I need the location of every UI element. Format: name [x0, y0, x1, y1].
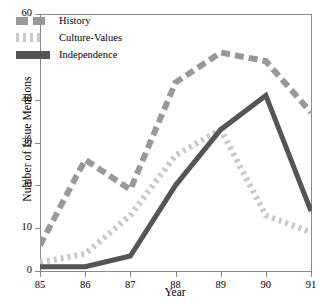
x-tick-label: 87	[118, 279, 142, 290]
x-tick-label: 89	[209, 279, 233, 290]
x-tick: 89	[221, 272, 222, 277]
x-tick-label: 86	[73, 279, 97, 290]
legend-item-culture-values[interactable]: Culture-Values	[16, 29, 122, 46]
x-tick-label: 91	[299, 279, 323, 290]
y-tick-label: 10	[22, 221, 33, 232]
legend-item-history[interactable]: History	[16, 12, 122, 29]
chart-legend: HistoryCulture-ValuesIndependence	[16, 12, 122, 63]
legend-label: Independence	[59, 49, 117, 60]
x-tick: 87	[130, 272, 131, 277]
x-tick-label: 85	[28, 279, 52, 290]
x-tick: 85	[40, 272, 41, 277]
x-tick: 91	[311, 272, 312, 277]
y-tick-label: 0	[27, 264, 32, 275]
x-tick-label: 88	[164, 279, 188, 290]
x-tick: 88	[176, 272, 177, 277]
dashed-swatch	[16, 17, 50, 25]
series-line-history	[40, 53, 311, 246]
x-tick: 90	[266, 272, 267, 277]
y-tick-label: 20	[22, 178, 33, 189]
dotted-swatch	[16, 33, 50, 42]
y-tick-label: 40	[22, 93, 33, 104]
x-tick: 86	[85, 272, 86, 277]
y-tick-label: 30	[22, 136, 33, 147]
legend-item-independence[interactable]: Independence	[16, 46, 122, 63]
legend-label: History	[59, 15, 91, 26]
series-line-independence	[40, 95, 311, 266]
solid-swatch	[16, 51, 50, 59]
series-line-culture-values	[40, 130, 311, 263]
legend-label: Culture-Values	[59, 32, 122, 43]
line-chart: Number of Issue Mentions Year 0102030405…	[0, 0, 326, 304]
x-tick-label: 90	[254, 279, 278, 290]
